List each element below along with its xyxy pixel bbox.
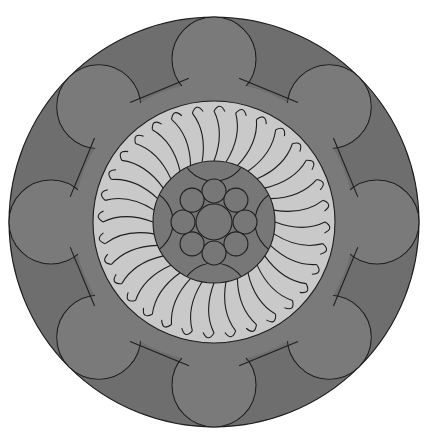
center-circle [196, 204, 232, 240]
inner-circle [224, 188, 248, 212]
rosette-diagram: Circular cross-section rosette diagram [0, 0, 429, 444]
inner-circle [224, 232, 248, 256]
inner-circle [171, 210, 195, 234]
inner-circle [202, 241, 226, 265]
rosette-svg [0, 0, 429, 444]
inner-circle [180, 188, 204, 212]
inner-circle [202, 179, 226, 203]
inner-circle [233, 210, 257, 234]
inner-circle [180, 232, 204, 256]
